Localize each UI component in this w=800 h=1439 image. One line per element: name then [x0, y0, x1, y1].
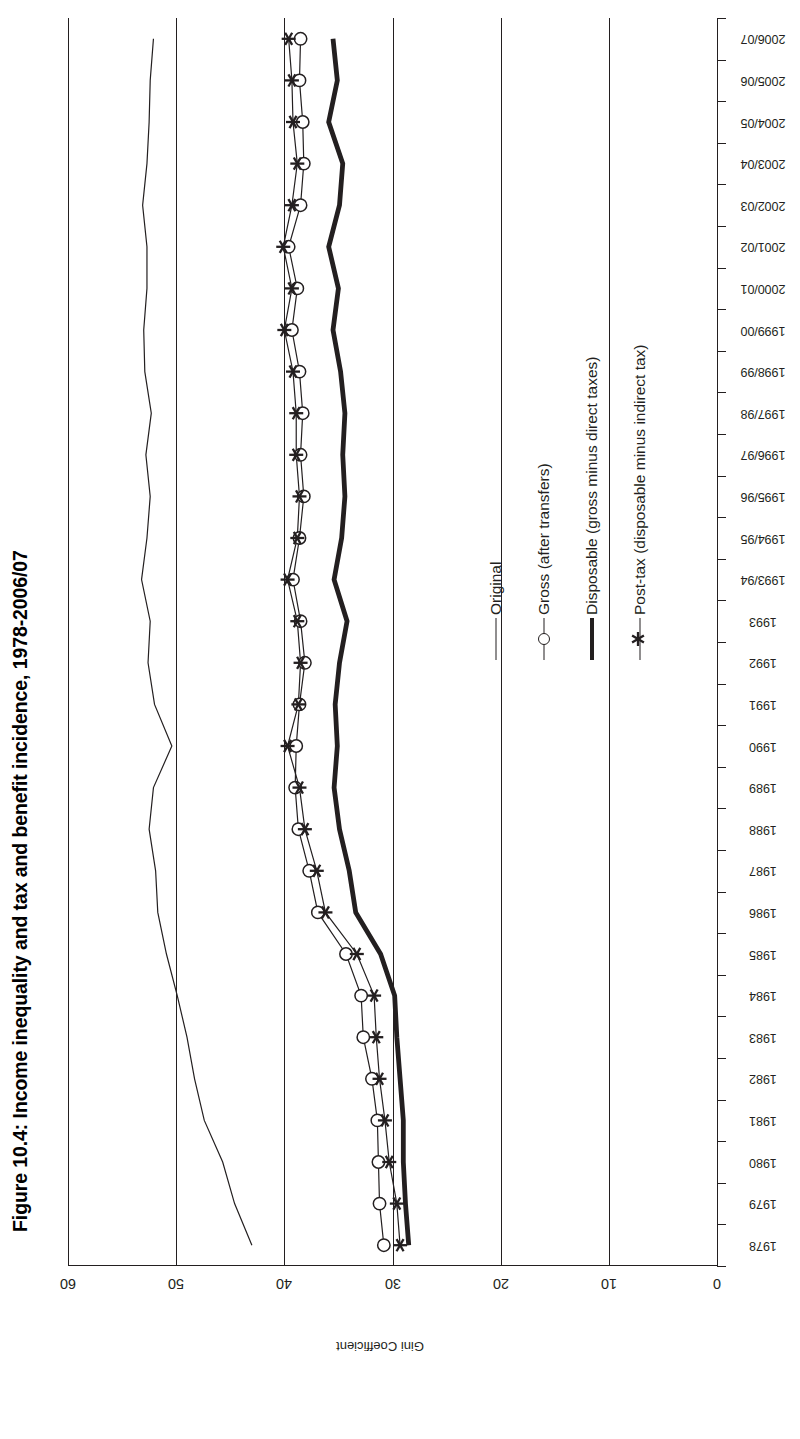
- year-tick: [717, 434, 726, 435]
- year-label: 2006/07: [730, 31, 796, 46]
- year-label: 1987: [730, 863, 796, 878]
- star-marker-icon: [630, 631, 651, 648]
- year-label: 1984: [730, 988, 796, 1003]
- legend-item-label: Disposable (gross minus direct taxes): [583, 357, 601, 615]
- year-label: 1983: [730, 1030, 796, 1045]
- legend-item-disposable[interactable]: Disposable (gross minus direct taxes): [572, 240, 612, 660]
- value-tick-label: 30: [373, 1274, 413, 1292]
- legend-item-gross[interactable]: Gross (after transfers): [524, 240, 564, 660]
- gridline-30: [393, 18, 394, 1266]
- year-tick: [717, 600, 726, 601]
- year-tick: [717, 18, 726, 19]
- value-tick-label: 10: [589, 1274, 629, 1292]
- year-label: 2000/01: [730, 281, 796, 296]
- year-label: 1996/97: [730, 447, 796, 462]
- gridline-50: [176, 18, 177, 1266]
- legend: OriginalGross (after transfers)Disposabl…: [476, 240, 686, 660]
- year-label: 1992: [730, 655, 796, 670]
- year-label: 1993: [730, 614, 796, 629]
- value-tick-label: 50: [156, 1274, 196, 1292]
- year-label: 2001/02: [730, 239, 796, 254]
- year-tick: [717, 351, 726, 352]
- year-tick: [717, 892, 726, 893]
- star-marker-icon: [629, 618, 651, 660]
- year-tick: [717, 1183, 726, 1184]
- line-icon: [485, 618, 507, 660]
- gridline-40: [284, 18, 285, 1266]
- year-label: 1989: [730, 780, 796, 795]
- page-title: Figure 10.4: Income inequality and tax a…: [0, 0, 40, 1240]
- year-tick: [717, 517, 726, 518]
- year-tick: [717, 808, 726, 809]
- year-label: 1993/94: [730, 572, 796, 587]
- year-label: 1991: [730, 697, 796, 712]
- year-label: 1986: [730, 905, 796, 920]
- year-label: 2003/04: [730, 156, 796, 171]
- year-tick: [717, 1016, 726, 1017]
- value-axis-title: Gini Coefficient: [230, 1332, 530, 1354]
- year-tick: [717, 933, 726, 934]
- gridline-60: [68, 18, 69, 1266]
- year-tick: [717, 476, 726, 477]
- year-label: 1997/98: [730, 406, 796, 421]
- value-tick-label: 60: [48, 1274, 88, 1292]
- year-tick: [717, 975, 726, 976]
- year-tick: [717, 850, 726, 851]
- year-tick: [717, 642, 726, 643]
- year-label: 1999/00: [730, 323, 796, 338]
- year-label: 1982: [730, 1071, 796, 1086]
- thick-line-icon: [581, 618, 603, 660]
- year-tick: [717, 1266, 726, 1267]
- year-label: 1978: [730, 1238, 796, 1253]
- year-tick: [717, 392, 726, 393]
- legend-item-label: Post-tax (disposable minus indirect tax): [631, 344, 649, 615]
- year-tick: [717, 767, 726, 768]
- value-tick-label: 20: [481, 1274, 521, 1292]
- legend-item-original[interactable]: Original: [476, 240, 516, 660]
- year-label: 2005/06: [730, 73, 796, 88]
- year-label: 1994/95: [730, 531, 796, 546]
- year-label: 1998/99: [730, 364, 796, 379]
- legend-item-label: Gross (after transfers): [535, 463, 553, 615]
- year-tick: [717, 1141, 726, 1142]
- circle-marker-icon: [533, 618, 555, 660]
- year-label: 2004/05: [730, 115, 796, 130]
- year-label: 1985: [730, 947, 796, 962]
- year-tick: [717, 684, 726, 685]
- year-tick: [717, 268, 726, 269]
- year-tick: [717, 309, 726, 310]
- figure-container: Figure 10.4: Income inequality and tax a…: [0, 0, 800, 1439]
- year-label: 1980: [730, 1155, 796, 1170]
- year-tick: [717, 143, 726, 144]
- year-tick: [717, 60, 726, 61]
- value-tick-label: 0: [697, 1274, 737, 1292]
- legend-item-posttax[interactable]: Post-tax (disposable minus indirect tax): [620, 240, 660, 660]
- year-label: 1979: [730, 1196, 796, 1211]
- year-tick: [717, 725, 726, 726]
- year-tick: [717, 184, 726, 185]
- year-tick: [717, 559, 726, 560]
- year-tick: [717, 226, 726, 227]
- year-tick: [717, 1224, 726, 1225]
- value-axis-line: [68, 1265, 717, 1266]
- legend-item-label: Original: [487, 562, 505, 615]
- year-label: 1981: [730, 1113, 796, 1128]
- year-label: 1995/96: [730, 489, 796, 504]
- year-tick: [717, 1100, 726, 1101]
- year-tick: [717, 1058, 726, 1059]
- year-label: 1990: [730, 739, 796, 754]
- circle-marker-icon: [538, 633, 550, 645]
- year-label: 1988: [730, 822, 796, 837]
- year-tick: [717, 101, 726, 102]
- value-tick-label: 40: [264, 1274, 304, 1292]
- year-label: 2002/03: [730, 198, 796, 213]
